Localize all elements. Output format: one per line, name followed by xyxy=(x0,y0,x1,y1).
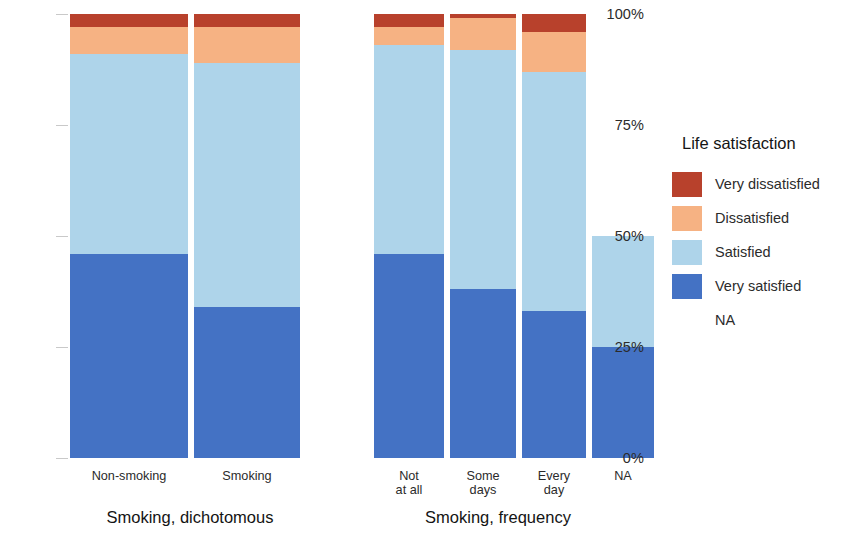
bar[interactable] xyxy=(450,14,516,458)
bar-segment[interactable] xyxy=(450,50,516,290)
legend: Life satisfaction Very dissatisfiedDissa… xyxy=(672,134,846,337)
bar-segment[interactable] xyxy=(374,27,444,45)
legend-label: Satisfied xyxy=(715,244,771,260)
legend-item[interactable]: NA xyxy=(672,303,846,337)
legend-swatch xyxy=(672,206,702,231)
legend-swatch xyxy=(672,240,702,265)
bar-segment[interactable] xyxy=(374,254,444,458)
legend-swatch xyxy=(672,172,702,197)
bar-segment[interactable] xyxy=(522,311,586,458)
bar-segment[interactable] xyxy=(70,14,188,27)
bar-segment[interactable] xyxy=(450,18,516,49)
y-axis-tick-label: 0% xyxy=(623,450,644,466)
legend-title: Life satisfaction xyxy=(682,134,846,153)
legend-label: Very satisfied xyxy=(715,278,801,294)
stacked-bar-chart: 0%25%50%75%100% Non-smokingSmokingNot at… xyxy=(0,0,846,548)
legend-label: Dissatisfied xyxy=(715,210,789,226)
legend-item[interactable]: Very dissatisfied xyxy=(672,167,846,201)
bar-segment[interactable] xyxy=(522,32,586,72)
y-axis-tick-mark xyxy=(56,125,68,126)
y-axis-tick-label: 75% xyxy=(615,117,644,133)
bar-segment[interactable] xyxy=(374,14,444,27)
bar-segment[interactable] xyxy=(70,54,188,254)
bar-segment[interactable] xyxy=(592,236,654,347)
legend-label: Very dissatisfied xyxy=(715,176,820,192)
bar-segment[interactable] xyxy=(592,347,654,458)
legend-label: NA xyxy=(715,312,735,328)
category-label: NA xyxy=(572,470,674,484)
bar-segment[interactable] xyxy=(70,27,188,54)
bar-segment[interactable] xyxy=(194,27,300,63)
bar[interactable] xyxy=(374,14,444,458)
bar[interactable] xyxy=(522,14,586,458)
y-axis-tick-label: 100% xyxy=(607,6,645,22)
legend-item[interactable]: Satisfied xyxy=(672,235,846,269)
legend-item[interactable]: Very satisfied xyxy=(672,269,846,303)
legend-swatch xyxy=(672,274,702,299)
bar-segment[interactable] xyxy=(522,14,586,32)
bar-segment[interactable] xyxy=(450,289,516,458)
legend-items: Very dissatisfiedDissatisfiedSatisfiedVe… xyxy=(672,167,846,337)
bar[interactable] xyxy=(194,14,300,458)
bar-segment[interactable] xyxy=(194,307,300,458)
panel-title-smoking-dichotomous: Smoking, dichotomous xyxy=(40,508,340,527)
legend-swatch xyxy=(672,308,702,333)
y-axis-tick-label: 25% xyxy=(615,339,644,355)
bar[interactable] xyxy=(70,14,188,458)
bar-segment[interactable] xyxy=(522,72,586,312)
y-axis-tick-label: 50% xyxy=(615,228,644,244)
plot-area: 0%25%50%75%100% Non-smokingSmokingNot at… xyxy=(0,0,660,470)
y-axis-tick-mark xyxy=(56,347,68,348)
bar-segment[interactable] xyxy=(194,63,300,307)
panel-title-smoking-frequency: Smoking, frequency xyxy=(348,508,648,527)
y-axis-tick-mark xyxy=(56,458,68,459)
bar-segment[interactable] xyxy=(194,14,300,27)
category-label: Smoking xyxy=(174,470,320,484)
y-axis-tick-mark xyxy=(56,14,68,15)
y-axis-tick-mark xyxy=(56,236,68,237)
bar-segment[interactable] xyxy=(374,45,444,254)
y-axis xyxy=(0,0,70,470)
legend-item[interactable]: Dissatisfied xyxy=(672,201,846,235)
bar-segment[interactable] xyxy=(70,254,188,458)
